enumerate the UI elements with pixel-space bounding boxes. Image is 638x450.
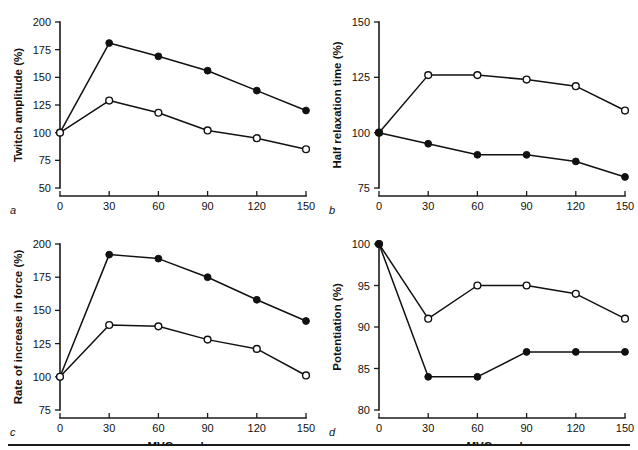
data-point-filled-circle-series-30 (425, 373, 432, 380)
y-tick-label: 75 (39, 404, 51, 416)
panel-letter: c (10, 426, 16, 438)
data-point-filled-circle-series-60 (155, 255, 162, 262)
x-tick-label: 150 (297, 200, 315, 212)
data-point-filled-circle-series-120 (572, 349, 579, 356)
data-point-open-circle-series-60 (474, 282, 481, 289)
y-tick-label: 100 (352, 127, 370, 139)
panel-letter: d (329, 426, 336, 438)
series-line-open-circle-series (60, 101, 306, 150)
y-tick-label: 200 (33, 238, 51, 250)
x-tick-label: 60 (471, 422, 483, 434)
x-tick-label: 0 (57, 200, 63, 212)
y-tick-label: 100 (33, 371, 51, 383)
y-tick-label: 75 (358, 182, 370, 194)
data-point-filled-circle-series-120 (572, 158, 579, 165)
data-point-open-circle-series-90 (523, 76, 530, 83)
panel-letter: b (329, 204, 335, 216)
series-line-filled-circle-series (379, 244, 625, 377)
data-point-filled-circle-series-60 (474, 373, 481, 380)
data-point-filled-circle-series-90 (204, 67, 211, 74)
data-point-filled-circle-series-90 (523, 349, 530, 356)
x-tick-label: 30 (422, 200, 434, 212)
data-point-filled-circle-series-150 (622, 174, 629, 181)
y-tick-label: 200 (33, 16, 51, 28)
data-point-filled-circle-series-120 (253, 296, 260, 303)
x-tick-label: 90 (201, 422, 213, 434)
y-tick-label: 150 (33, 71, 51, 83)
y-tick-label: 95 (358, 280, 370, 292)
y-tick-label: 175 (33, 44, 51, 56)
data-point-filled-circle-series-150 (303, 107, 310, 114)
data-point-filled-circle-series-90 (523, 151, 530, 158)
x-tick-label: 150 (616, 422, 634, 434)
data-point-filled-circle-series-0 (376, 129, 383, 136)
data-point-open-circle-series-60 (155, 323, 162, 330)
x-tick-label: 150 (297, 422, 315, 434)
data-point-open-circle-series-150 (622, 107, 629, 114)
data-point-open-circle-series-30 (425, 315, 432, 322)
x-tick-label: 60 (152, 422, 164, 434)
y-tick-label: 125 (352, 71, 370, 83)
data-point-open-circle-series-120 (572, 290, 579, 297)
y-tick-label: 150 (352, 16, 370, 28)
y-tick-label: 175 (33, 271, 51, 283)
x-tick-label: 30 (103, 200, 115, 212)
x-tick-label: 60 (152, 200, 164, 212)
x-tick-label: 120 (248, 200, 266, 212)
panel-a-twitch-amplitude: 50751001251501752000306090120150Twitch a… (0, 0, 319, 222)
x-tick-label: 30 (422, 422, 434, 434)
x-tick-label: 120 (248, 422, 266, 434)
data-point-filled-circle-series-30 (106, 251, 113, 258)
data-point-open-circle-series-60 (155, 109, 162, 116)
data-point-open-circle-series-30 (106, 97, 113, 104)
y-tick-label: 75 (39, 154, 51, 166)
series-line-filled-circle-series (60, 43, 306, 133)
data-point-filled-circle-series-120 (253, 87, 260, 94)
chart-d: 808590951000306090120150Potentiation (%)… (319, 222, 638, 444)
y-axis-title: Rate of increase in force (%) (12, 250, 24, 405)
x-tick-label: 150 (616, 200, 634, 212)
data-point-open-circle-series-90 (204, 336, 211, 343)
data-point-open-circle-series-90 (204, 127, 211, 134)
data-point-filled-circle-series-90 (204, 274, 211, 281)
y-tick-label: 90 (358, 321, 370, 333)
chart-b: 751001251500306090120150Half relaxation … (319, 0, 638, 222)
y-tick-label: 100 (33, 127, 51, 139)
data-point-filled-circle-series-30 (425, 140, 432, 147)
data-point-filled-circle-series-60 (155, 53, 162, 60)
x-tick-label: 90 (520, 422, 532, 434)
x-tick-label: 0 (376, 422, 382, 434)
x-tick-label: 30 (103, 422, 115, 434)
series-line-filled-circle-series (60, 255, 306, 377)
data-point-open-circle-series-120 (253, 135, 260, 142)
data-point-filled-circle-series-60 (474, 151, 481, 158)
y-axis-title: Potentiation (%) (331, 283, 343, 371)
data-point-open-circle-series-150 (303, 372, 310, 379)
data-point-open-circle-series-30 (425, 72, 432, 79)
panel-d-potentiation: 808590951000306090120150Potentiation (%)… (319, 222, 638, 444)
y-tick-label: 100 (352, 238, 370, 250)
series-line-open-circle-series (60, 325, 306, 377)
data-point-open-circle-series-150 (303, 146, 310, 153)
x-tick-label: 0 (57, 422, 63, 434)
x-tick-label: 90 (201, 200, 213, 212)
data-point-open-circle-series-60 (474, 72, 481, 79)
series-line-filled-circle-series (379, 133, 625, 177)
data-point-filled-circle-series-0 (376, 241, 383, 248)
data-point-open-circle-series-0 (57, 373, 64, 380)
data-point-open-circle-series-150 (622, 315, 629, 322)
data-point-filled-circle-series-150 (303, 318, 310, 325)
figure-container: 50751001251501752000306090120150Twitch a… (0, 0, 638, 450)
y-tick-label: 125 (33, 338, 51, 350)
data-point-filled-circle-series-30 (106, 40, 113, 47)
x-tick-label: 60 (471, 200, 483, 212)
panel-letter: a (10, 204, 16, 216)
data-point-filled-circle-series-150 (622, 349, 629, 356)
y-tick-label: 125 (33, 99, 51, 111)
x-tick-label: 0 (376, 200, 382, 212)
x-tick-label: 120 (567, 200, 585, 212)
data-point-open-circle-series-0 (57, 129, 64, 136)
series-line-open-circle-series (379, 244, 625, 319)
x-tick-label: 120 (567, 422, 585, 434)
x-tick-label: 90 (520, 200, 532, 212)
